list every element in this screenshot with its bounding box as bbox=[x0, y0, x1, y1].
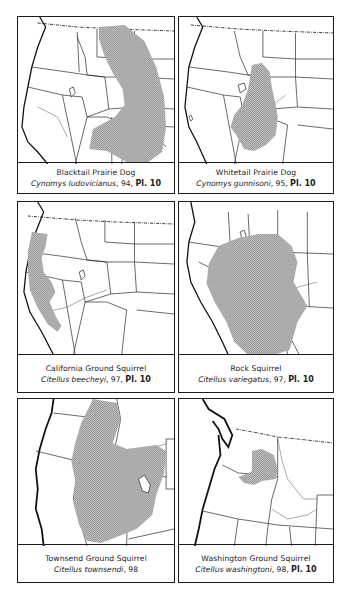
range-map-california-ground-squirrel bbox=[18, 202, 174, 355]
range-map-whitetail-prairie-dog bbox=[179, 17, 333, 164]
range-map-washington-ground-squirrel bbox=[179, 399, 333, 546]
common-name: Whitetail Prairie Dog bbox=[179, 167, 333, 178]
map-caption: Townsend Ground Squirrel Citellus townse… bbox=[18, 544, 174, 582]
page-reference: , 97, bbox=[106, 375, 125, 384]
scientific-name: Citellus washingtoni bbox=[195, 565, 271, 574]
range-area bbox=[238, 449, 277, 485]
scientific-name-line: Citellus variegatus, 97, Pl. 10 bbox=[179, 374, 333, 385]
scientific-name-line: Citellus beecheyi, 97, Pl. 10 bbox=[18, 374, 174, 385]
scientific-name: Cynomys gunnisoni bbox=[196, 179, 270, 188]
range-area bbox=[89, 25, 166, 162]
plate-reference: Pl. 10 bbox=[135, 179, 161, 188]
page-reference: , 98, bbox=[272, 565, 291, 574]
page-reference: , 95, bbox=[271, 179, 290, 188]
scientific-name-line: Citellus washingtoni, 98, Pl. 10 bbox=[179, 564, 333, 575]
page-reference: , 98 bbox=[123, 565, 138, 574]
range-map-panel-blacktail-prairie-dog: Blacktail Prairie Dog Cynomys ludovician… bbox=[17, 16, 175, 194]
map-caption: Blacktail Prairie Dog Cynomys ludovician… bbox=[18, 162, 174, 193]
plate-reference: Pl. 10 bbox=[291, 565, 317, 574]
common-name: Townsend Ground Squirrel bbox=[18, 553, 174, 564]
range-map-blacktail-prairie-dog bbox=[18, 17, 174, 164]
map-caption: Washington Ground Squirrel Citellus wash… bbox=[179, 544, 333, 582]
range-map-panel-california-ground-squirrel: California Ground Squirrel Citellus beec… bbox=[17, 201, 175, 393]
scientific-name: Cynomys ludovicianus bbox=[31, 179, 116, 188]
scientific-name: Citellus variegatus bbox=[198, 375, 269, 384]
range-map-panel-whitetail-prairie-dog: Whitetail Prairie Dog Cynomys gunnisoni,… bbox=[178, 16, 334, 194]
range-map-panel-rock-squirrel: Rock Squirrel Citellus variegatus, 97, P… bbox=[178, 201, 334, 393]
common-name: Washington Ground Squirrel bbox=[179, 553, 333, 564]
plate-reference: Pl. 10 bbox=[288, 375, 314, 384]
scientific-name: Citellus beecheyi bbox=[41, 375, 106, 384]
page-reference: , 94, bbox=[116, 179, 135, 188]
page-reference: , 97, bbox=[269, 375, 288, 384]
scientific-name-line: Cynomys gunnisoni, 95, Pl. 10 bbox=[179, 178, 333, 189]
common-name: California Ground Squirrel bbox=[18, 363, 174, 374]
range-map-townsend-ground-squirrel bbox=[18, 399, 174, 546]
map-caption: California Ground Squirrel Citellus beec… bbox=[18, 354, 174, 392]
range-map-panel-townsend-ground-squirrel: Townsend Ground Squirrel Citellus townse… bbox=[17, 398, 175, 583]
map-caption: Rock Squirrel Citellus variegatus, 97, P… bbox=[179, 354, 333, 392]
range-map-rock-squirrel bbox=[179, 202, 333, 355]
range-area bbox=[71, 399, 166, 543]
map-caption: Whitetail Prairie Dog Cynomys gunnisoni,… bbox=[179, 162, 333, 193]
range-area bbox=[230, 63, 277, 151]
scientific-name-line: Citellus townsendi, 98 bbox=[18, 564, 174, 575]
common-name: Blacktail Prairie Dog bbox=[18, 167, 174, 178]
range-map-panel-washington-ground-squirrel: Washington Ground Squirrel Citellus wash… bbox=[178, 398, 334, 583]
scientific-name-line: Cynomys ludovicianus, 94, Pl. 10 bbox=[18, 178, 174, 189]
range-area bbox=[207, 234, 308, 355]
scientific-name: Citellus townsendi bbox=[54, 565, 123, 574]
plate-reference: Pl. 10 bbox=[125, 375, 151, 384]
plate-reference: Pl. 10 bbox=[290, 179, 316, 188]
common-name: Rock Squirrel bbox=[179, 363, 333, 374]
